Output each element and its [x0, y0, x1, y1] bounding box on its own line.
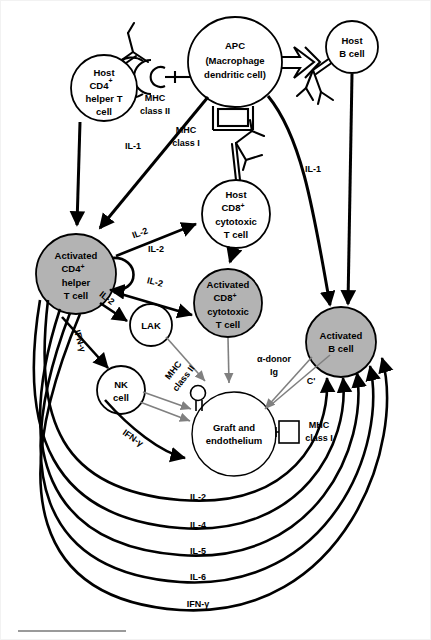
lak-label: LAK — [141, 320, 161, 331]
activated-cd8-line1: Activated — [207, 279, 250, 290]
arc-label-il6: IL-6 — [190, 572, 206, 582]
arc-label-il5: IL-5 — [190, 546, 206, 556]
host-cd4-line4: cell — [96, 106, 112, 117]
activated-cd8-line3: cytotoxic — [207, 306, 249, 317]
host-b-line2: B cell — [339, 48, 364, 59]
apc-line3: dendritic cell) — [204, 69, 266, 80]
immunology-diagram-figure: Host CD4+ helper T cell APC (Macrophage … — [0, 0, 431, 640]
host-b-line1: Host — [341, 35, 363, 46]
activated-cd8-line4: T cell — [216, 319, 240, 330]
activated-b-line1: Activated — [320, 330, 363, 341]
activated-cd8-cytotoxic-t-cell: Activated CD8+ cytotoxic T cell — [194, 269, 262, 337]
diagram-canvas: Host CD4+ helper T cell APC (Macrophage … — [0, 0, 431, 640]
il1-right-label: IL-1 — [305, 164, 321, 174]
host-cd8-line1: Host — [225, 189, 247, 200]
svg-text:class I: class I — [172, 138, 200, 148]
apc-line1: APC — [225, 40, 245, 51]
il1-left-label: IL-1 — [125, 141, 141, 151]
host-b-cell: Host B cell — [326, 21, 378, 73]
il2-autocrine-label: IL-2 — [148, 244, 164, 254]
host-cd8-cytotoxic-t-cell: Host CD8+ cytotoxic T cell — [202, 180, 270, 248]
nk-cell: NK cell — [97, 366, 145, 414]
svg-text:MHC: MHC — [309, 420, 330, 430]
svg-text:class I: class I — [305, 433, 333, 443]
svg-text:Ig: Ig — [270, 367, 278, 377]
graft-line2: endothelium — [206, 435, 262, 446]
arc-label-il4: IL-4 — [190, 520, 206, 530]
arrow-activated-cd8-to-graft — [228, 338, 229, 383]
graft-line1: Graft and — [213, 422, 255, 433]
apc-line2: (Macrophage — [205, 55, 264, 66]
activated-cd4-line3: helper — [62, 277, 91, 288]
svg-text:MHC: MHC — [176, 125, 197, 135]
activated-cd4-line4: T cell — [64, 290, 88, 301]
host-cd4-helper-t-cell: Host CD4+ helper T cell — [71, 55, 137, 121]
svg-text:MHC: MHC — [145, 93, 166, 103]
activated-b-line2: B cell — [328, 343, 353, 354]
lak-cell: LAK — [130, 304, 172, 346]
arc-label-ifng: IFN-γ — [187, 599, 210, 609]
activated-cd4-line1: Activated — [55, 250, 98, 261]
complement-label: C' — [307, 376, 316, 386]
apc-cell: APC (Macrophage dendritic cell) — [188, 17, 282, 107]
host-cd8-line3: cytotoxic — [215, 216, 257, 227]
nk-line1: NK — [114, 379, 128, 390]
svg-text:α-donor: α-donor — [257, 354, 292, 364]
host-cd4-line3: helper T — [86, 93, 123, 104]
arc-label-il2: IL-2 — [190, 492, 206, 502]
host-cd8-line4: T cell — [224, 229, 248, 240]
nk-line2: cell — [113, 392, 129, 403]
svg-text:class II: class II — [140, 106, 170, 116]
